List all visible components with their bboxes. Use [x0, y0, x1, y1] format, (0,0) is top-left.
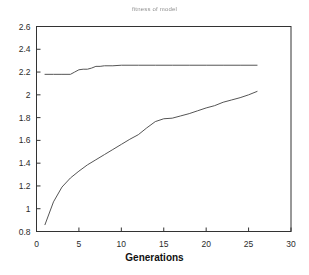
- x-tick-label: 10: [117, 239, 126, 249]
- y-tick-label: 1.8: [2, 113, 31, 123]
- y-tick-label: 2.6: [2, 22, 31, 32]
- y-tick-label: 2.4: [2, 44, 31, 54]
- y-tick-label: 0.8: [2, 227, 31, 237]
- chart-figure: fitness of model 0.811.21.41.61.822.22.4…: [0, 0, 309, 275]
- x-tick-label: 20: [201, 239, 210, 249]
- x-tick-label: 5: [77, 239, 82, 249]
- plot-frame: [37, 27, 292, 232]
- y-tick-label: 1: [2, 204, 31, 214]
- y-tick-label: 1.2: [2, 181, 31, 191]
- x-axis-title: Generations: [0, 252, 309, 263]
- series-line: [45, 91, 257, 224]
- x-tick-label: 30: [286, 239, 295, 249]
- x-tick-label: 0: [34, 239, 39, 249]
- x-tick-label: 25: [244, 239, 253, 249]
- data-series: [45, 65, 257, 224]
- y-tick-label: 2.2: [2, 67, 31, 77]
- x-tick-label: 15: [159, 239, 168, 249]
- axis-ticks: [37, 27, 292, 232]
- y-tick-label: 1.6: [2, 135, 31, 145]
- series-line: [45, 65, 257, 74]
- y-tick-label: 1.4: [2, 158, 31, 168]
- y-tick-label: 2: [2, 90, 31, 100]
- plot-canvas: [0, 0, 309, 275]
- plot-border: [37, 27, 292, 232]
